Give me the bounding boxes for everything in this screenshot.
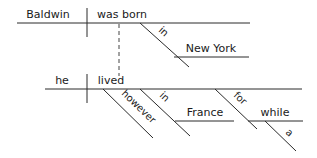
sentence-diagram: Baldwin was born in New York he lived ho…: [0, 0, 317, 158]
clause2-adverb: however: [120, 88, 159, 126]
clause2-article: a: [284, 126, 296, 138]
clause2-subject: he: [55, 74, 69, 87]
clause1-verb: was born: [97, 8, 147, 21]
clause2-prep-for-object: while: [261, 106, 290, 119]
clause1-prep-in: in: [157, 24, 171, 38]
clause2-verb: lived: [98, 74, 124, 87]
clause2-prep-in: in: [158, 89, 172, 103]
clause2-prep-for: for: [232, 89, 250, 107]
clause1-subject: Baldwin: [26, 8, 69, 21]
clause1-prep-object: New York: [186, 42, 237, 55]
clause2-prep-in-object: France: [187, 106, 224, 119]
